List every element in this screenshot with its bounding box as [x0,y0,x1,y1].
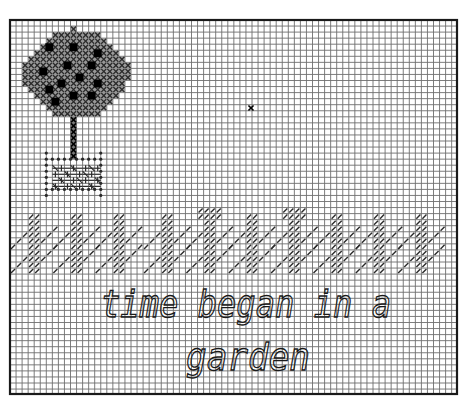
caption-line-2: garden [186,335,310,379]
caption: time began in a garden [0,0,463,404]
caption-line-1: time began in a [101,282,391,326]
cross-stitch-pattern-chart: time began in a garden [0,0,463,404]
